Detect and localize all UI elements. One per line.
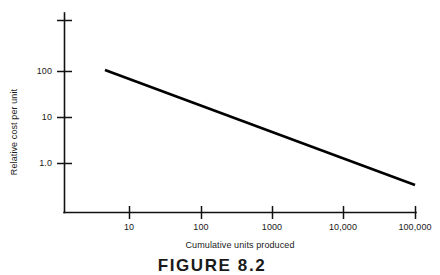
figure-caption: FIGURE 8.2 <box>158 256 267 275</box>
x-tick-label-100: 100 <box>193 223 208 232</box>
experience-curve-line <box>105 70 415 185</box>
x-tick-label-10000: 10,000 <box>329 223 357 232</box>
x-tick-label-1000: 1000 <box>262 223 282 232</box>
x-tick-label-100000: 100,000 <box>398 223 431 232</box>
y-tick-label-100: 100 <box>10 67 52 76</box>
y-axis-title: Relative cost per unit <box>10 89 19 175</box>
x-tick-label-10: 10 <box>124 223 134 232</box>
x-axis-title: Cumulative units produced <box>185 241 294 250</box>
